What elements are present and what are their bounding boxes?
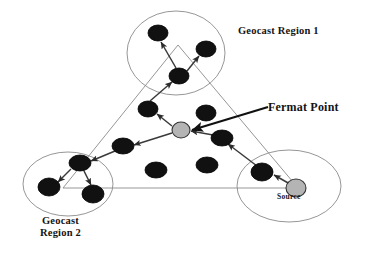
- source-label: Source: [277, 193, 301, 202]
- node-center-low-left: [145, 162, 167, 178]
- node-east-relay: [211, 130, 233, 146]
- node-r2-bottom: [82, 185, 104, 203]
- node-fermat: [172, 122, 190, 138]
- nodes-layer: [38, 25, 306, 203]
- node-r2-left: [38, 178, 60, 196]
- node-mid-right: [196, 105, 216, 121]
- geocast-region-2: [23, 152, 113, 216]
- node-center-low-right: [196, 157, 218, 173]
- arrow-relay-to-east: [228, 144, 257, 166]
- node-r1-center: [169, 68, 189, 84]
- arrow-west-to-r2hub: [91, 151, 115, 161]
- node-mid-left: [138, 101, 158, 117]
- node-r1-right: [196, 41, 216, 57]
- arrow-east-to-fermat: [191, 131, 213, 135]
- node-r2-hub: [69, 155, 91, 171]
- route-arrows-layer: [58, 42, 290, 185]
- node-src-relay: [251, 163, 273, 181]
- geocast-fermat-diagram: Geocast Region 1 Fermat Point GeocastReg…: [0, 0, 375, 255]
- arrow-r1c-to-top: [161, 42, 176, 68]
- geocast-region-1-label: Geocast Region 1: [238, 25, 319, 37]
- fermat-point-label: Fermat Point: [268, 101, 339, 115]
- node-west-relay: [112, 138, 134, 154]
- geocast-region-2-label-line2: Region 2: [40, 227, 81, 238]
- arrow-r2hub-to-bottom: [84, 171, 91, 185]
- arrow-midleft-to-r1c: [150, 82, 172, 101]
- geocast-region-2-label: GeocastRegion 2: [40, 215, 81, 239]
- arrow-fermat-to-midleft: [157, 114, 172, 126]
- node-r1-top: [148, 25, 168, 41]
- geocast-region-2-label-line1: Geocast: [42, 215, 79, 226]
- arrow-fermat-to-west: [134, 133, 172, 145]
